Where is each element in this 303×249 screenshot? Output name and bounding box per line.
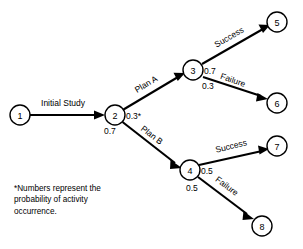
node-5-label: 5 [274, 18, 279, 28]
node-2-label: 2 [112, 111, 117, 121]
node-7-label: 7 [274, 142, 279, 152]
probability-success-top: 0.7 [204, 66, 216, 76]
probability-success-bottom: 0.5 [201, 166, 213, 176]
arrowhead-3-6 [256, 93, 268, 102]
node-3-label: 3 [190, 66, 195, 76]
node-6-label: 6 [274, 99, 279, 109]
node-4[interactable]: 4 [180, 160, 200, 180]
node-1-label: 1 [17, 111, 22, 121]
edge-2-to-4: Plan B 0.7 [104, 122, 182, 169]
edge-4-to-7: Success 0.5 [199, 137, 269, 176]
arrowhead-1-2 [94, 111, 105, 120]
node-3[interactable]: 3 [183, 60, 203, 80]
node-8-label: 8 [259, 222, 264, 232]
decision-tree-diagram: Initial Study Plan A 0.3* Plan B 0.7 Suc… [0, 0, 303, 249]
footnote: *Numbers represent the probability of ac… [14, 183, 164, 217]
node-5[interactable]: 5 [267, 12, 287, 32]
edge-label-initial-study: Initial Study [41, 98, 86, 108]
node-1[interactable]: 1 [10, 105, 30, 125]
probability-plan-b: 0.7 [104, 126, 116, 136]
node-4-label: 4 [187, 166, 192, 176]
footnote-text: Numbers represent the probability of act… [14, 184, 101, 216]
edge-label-failure-bottom: Failure [214, 174, 241, 198]
edge-label-plan-b: Plan B [139, 123, 165, 147]
edge-line-4-7 [199, 151, 262, 165]
node-7[interactable]: 7 [267, 136, 287, 156]
edge-4-to-8: Failure 0.5 [186, 174, 254, 220]
edge-3-to-5: Success 0.7 [202, 25, 270, 77]
edge-1-to-2: Initial Study [30, 98, 105, 120]
edge-label-success-top: Success [213, 25, 246, 50]
probability-plan-a: 0.3* [126, 111, 142, 121]
node-2[interactable]: 2 [105, 105, 125, 125]
probability-failure-bottom: 0.5 [186, 183, 198, 193]
node-8[interactable]: 8 [252, 216, 272, 236]
node-6[interactable]: 6 [267, 93, 287, 113]
edge-2-to-3: Plan A 0.3* [124, 73, 186, 121]
probability-failure-top: 0.3 [202, 81, 214, 91]
edge-label-success-bottom: Success [214, 137, 248, 154]
arrowhead-4-8 [243, 211, 255, 220]
